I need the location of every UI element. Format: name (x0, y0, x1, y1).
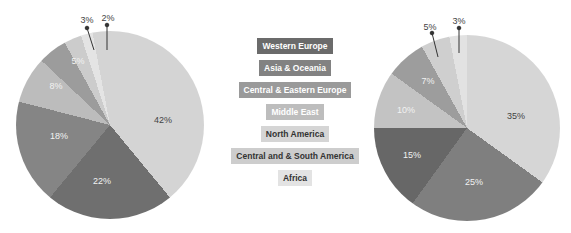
legend-item-north-america: North America (261, 126, 329, 142)
slice-label: 3% (452, 16, 465, 26)
slice-label: 5% (423, 22, 436, 32)
legend-item-asia-oceania: Asia & Oceania (259, 60, 331, 76)
slice-label: 22% (93, 176, 111, 186)
legend-item-africa: Africa (278, 170, 312, 186)
legend-item-middle-east: Middle East (266, 104, 323, 120)
slice-label: 18% (50, 131, 68, 141)
legend-item-western-europe: Western Europe (257, 38, 332, 54)
legend-item-central-south-america: Central and & South America (231, 148, 358, 164)
slice-label: 8% (49, 81, 62, 91)
slice-label: 7% (421, 76, 434, 86)
slice-label: 10% (397, 105, 415, 115)
slice-label: 15% (403, 150, 421, 160)
slice-label: 42% (154, 115, 172, 125)
legend-item-central-eastern-europe: Central & Eastern Europe (239, 82, 352, 98)
slice-label: 2% (101, 13, 114, 23)
legend: Western Europe Asia & Oceania Central & … (220, 38, 370, 192)
slice-label: 35% (507, 111, 525, 121)
slice-label: 5% (71, 56, 84, 66)
slice-label: 25% (465, 177, 483, 187)
slice-label: 3% (80, 15, 93, 25)
